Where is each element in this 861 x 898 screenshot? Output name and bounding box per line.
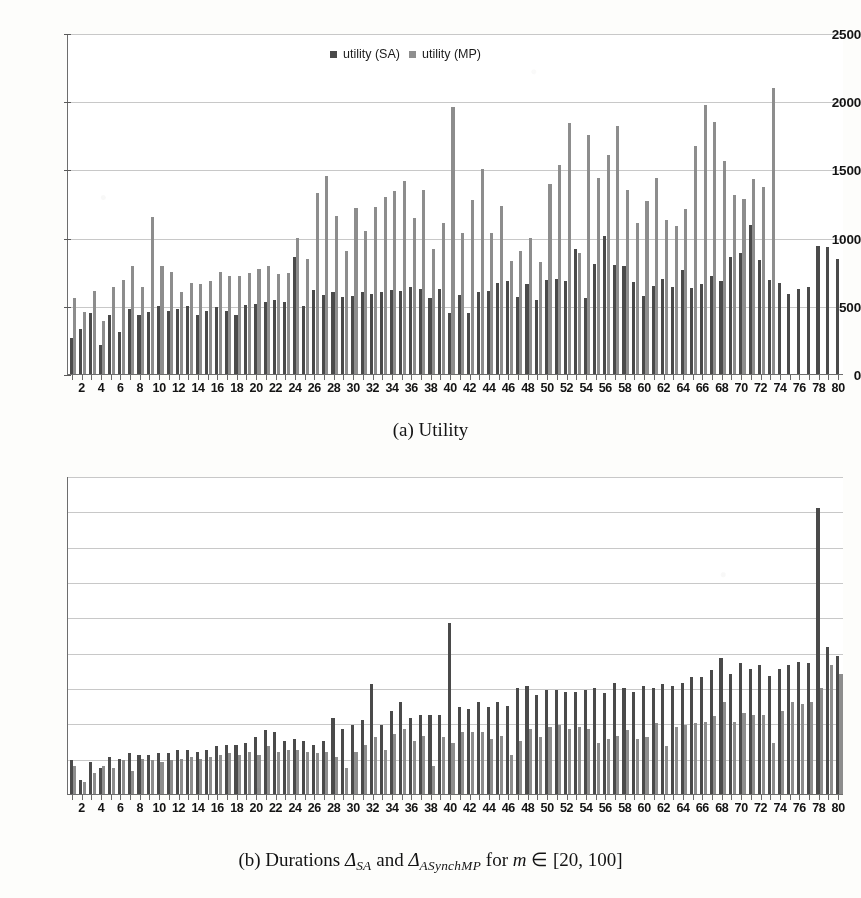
x-axis-tick-mark: [353, 375, 354, 380]
x-axis-tick-label: 80: [832, 381, 845, 395]
x-axis-tick-mark: [576, 795, 577, 800]
y-axis-tick-label: 2000: [805, 95, 861, 110]
x-axis-tick-mark: [479, 375, 480, 380]
x-axis-tick-mark: [470, 375, 471, 380]
x-axis-tick-mark: [547, 795, 548, 800]
x-axis-tick-mark: [179, 375, 180, 380]
x-axis-tick-mark: [421, 795, 422, 800]
x-axis-tick-mark: [828, 375, 829, 380]
x-axis-tick-mark: [693, 795, 694, 800]
x-axis-tick-label: 64: [676, 801, 689, 815]
caption-utility: (a) Utility: [0, 419, 861, 441]
x-axis-tick-mark: [72, 795, 73, 800]
x-axis-tick-label: 28: [327, 381, 340, 395]
x-axis-tick-mark: [596, 375, 597, 380]
x-axis-tick-mark: [731, 795, 732, 800]
x-axis-tick-mark: [702, 795, 703, 800]
x-axis-tick-mark: [392, 795, 393, 800]
x-axis-tick-label: 64: [676, 381, 689, 395]
x-axis-tick-mark: [82, 795, 83, 800]
x-axis-tick-label: 30: [347, 801, 360, 815]
x-axis-tick-mark: [140, 375, 141, 380]
caption-b-delta-sa: Δ: [345, 849, 356, 870]
x-axis-tick-label: 22: [269, 801, 282, 815]
x-axis-tick-mark: [101, 375, 102, 380]
x-axis-tick-label: 14: [191, 381, 204, 395]
x-axis-tick-label: 60: [638, 801, 651, 815]
x-axis-tick-label: 62: [657, 381, 670, 395]
x-axis-tick-label: 66: [696, 801, 709, 815]
x-axis-tick-mark: [411, 375, 412, 380]
x-axis-tick-mark: [276, 795, 277, 800]
x-axis-tick-mark: [179, 795, 180, 800]
x-axis-tick-mark: [295, 375, 296, 380]
x-axis-tick-mark: [373, 795, 374, 800]
x-axis-tick-mark: [450, 375, 451, 380]
x-axis-tick-mark: [838, 375, 839, 380]
x-axis-tick-label: 76: [793, 801, 806, 815]
x-axis-tick-mark: [615, 375, 616, 380]
caption-b-delta-sa-subscript: SA: [356, 858, 371, 873]
x-axis-tick-mark: [334, 795, 335, 800]
x-axis-tick-label: 36: [405, 381, 418, 395]
x-axis-tick-label: 68: [715, 801, 728, 815]
x-axis-tick-mark: [809, 375, 810, 380]
x-axis-tick-label: 72: [754, 801, 767, 815]
panel-utility: 05001000150020002500 2468101214161820222…: [0, 0, 861, 418]
x-axis-tick-label: 70: [735, 381, 748, 395]
x-axis-tick-mark: [625, 795, 626, 800]
x-axis-tick-label: 18: [230, 381, 243, 395]
x-axis-tick-mark: [111, 375, 112, 380]
x-axis-tick-mark: [489, 795, 490, 800]
x-axis-tick-mark: [634, 375, 635, 380]
x-axis-tick-mark: [373, 375, 374, 380]
x-axis-tick-mark: [722, 795, 723, 800]
x-axis-tick-mark: [295, 795, 296, 800]
x-axis-tick-mark: [673, 795, 674, 800]
x-axis-tick-mark: [130, 375, 131, 380]
x-axis-tick-mark: [208, 795, 209, 800]
x-axis-tick-mark: [722, 375, 723, 380]
x-axis-tick-label: 58: [618, 381, 631, 395]
x-axis-tick-mark: [596, 795, 597, 800]
x-axis-tick-mark: [431, 375, 432, 380]
x-axis-tick-mark: [479, 795, 480, 800]
x-axis-tick-mark: [353, 795, 354, 800]
x-axis-tick-mark: [489, 375, 490, 380]
x-axis-tick-mark: [285, 795, 286, 800]
x-axis-tick-mark: [382, 375, 383, 380]
x-axis-tick-mark: [440, 795, 441, 800]
x-axis-tick-mark: [761, 375, 762, 380]
x-axis-tick-mark: [751, 375, 752, 380]
y-axis-tick-label: 1000: [805, 231, 861, 246]
x-axis-tick-label: 76: [793, 381, 806, 395]
x-axis-tick-mark: [246, 795, 247, 800]
x-axis-tick-mark: [615, 795, 616, 800]
x-axis-tick-mark: [237, 375, 238, 380]
x-axis-tick-label: 30: [347, 381, 360, 395]
x-axis-tick-label: 34: [385, 381, 398, 395]
x-axis-tick-mark: [382, 795, 383, 800]
x-axis-tick-mark: [440, 375, 441, 380]
x-axis-tick-mark: [120, 795, 121, 800]
x-axis-tick-mark: [227, 375, 228, 380]
x-axis-tick-label: 24: [288, 381, 301, 395]
x-axis-tick-mark: [324, 375, 325, 380]
x-axis-tick-mark: [246, 375, 247, 380]
x-axis-tick-label: 32: [366, 801, 379, 815]
x-axis-tick-mark: [266, 375, 267, 380]
x-axis-tick-mark: [654, 375, 655, 380]
x-axis-tick-mark: [217, 795, 218, 800]
x-axis-tick-label: 68: [715, 381, 728, 395]
legend-item: utility (MP): [409, 47, 481, 61]
y-axis-tick-mark: [64, 102, 71, 103]
x-axis-tick-mark: [528, 795, 529, 800]
x-axis-tick-mark: [644, 795, 645, 800]
x-axis-tick-mark: [683, 375, 684, 380]
x-axis-tick-mark: [518, 795, 519, 800]
legend-label: utility (MP): [422, 47, 481, 61]
x-axis-tick-mark: [314, 795, 315, 800]
x-axis-tick-mark: [634, 795, 635, 800]
x-axis-tick-mark: [518, 375, 519, 380]
x-axis-tick-label: 56: [599, 381, 612, 395]
